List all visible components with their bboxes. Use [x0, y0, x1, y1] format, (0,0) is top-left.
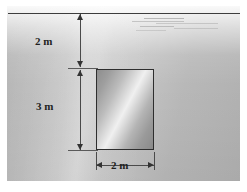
depth-arrow-down-icon	[77, 61, 83, 67]
rectangular-gate	[96, 69, 154, 150]
gate-bottom-extension-line	[68, 150, 98, 151]
height-arrow-up-icon	[77, 70, 83, 76]
width-arrow-left-icon	[96, 162, 102, 168]
depth-dimension-line	[80, 14, 81, 67]
water-surface-line	[8, 13, 240, 14]
height-dimension-line	[80, 70, 81, 150]
width-dimension-label: 2 m	[109, 160, 130, 171]
height-dimension-label: 3 m	[36, 101, 53, 112]
depth-dimension-label: 2 m	[35, 36, 52, 47]
gate-top-extension-line	[68, 68, 98, 69]
width-arrow-right-icon	[148, 162, 154, 168]
figure-canvas: 2 m 3 m 2 m	[0, 0, 247, 192]
width-right-extension-line	[154, 152, 155, 170]
depth-arrow-up-icon	[77, 14, 83, 20]
